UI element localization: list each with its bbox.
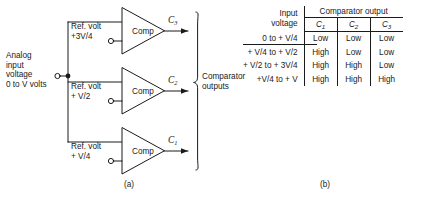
comparator-3-ref-line-2: +3V/4 (71, 32, 101, 42)
table-header-c1: C1 (304, 18, 337, 32)
analog-input-terminal-icon (55, 73, 60, 78)
table-header-c3-letter: C (382, 20, 388, 29)
table-row-3-c1: High (304, 73, 337, 87)
table-header-input-voltage: Input voltage (243, 6, 304, 32)
table-header-input-line-1: Input (243, 9, 298, 19)
comparator-1-ref-line-1: Ref. volt (71, 142, 101, 152)
comparator-1-body-label: Comp (132, 147, 154, 156)
caption-b: (b) (320, 180, 330, 189)
table-row-3-c2: High (337, 73, 370, 87)
table-row-2-c3: Low (370, 59, 403, 73)
table-row-3-c3: High (370, 73, 403, 87)
figure-root: Comp Comp Comp C3 C2 C1 Analog input vol… (0, 0, 439, 201)
comparator-3-body-label: Comp (132, 27, 154, 36)
analog-input-label-line-1: Analog (6, 51, 47, 61)
comparator-1-ref-line-2: + V/4 (71, 152, 101, 162)
table-row: + V/4 to + V/2 High Low Low (243, 46, 403, 60)
comparator-1-ref-terminal-icon (108, 158, 113, 163)
comparator-3-ref-label: Ref. volt +3V/4 (71, 22, 101, 41)
table-row-2-c2: High (337, 59, 370, 73)
table-row-0-c2: Low (337, 32, 370, 46)
comparator-2-ref-line-1: Ref. volt (71, 82, 101, 92)
table-header-c1-sub: 1 (322, 23, 325, 30)
table-row-1-c2: Low (337, 46, 370, 60)
comparator-1-output-label: C1 (168, 135, 177, 146)
table-row-2-c1: High (304, 59, 337, 73)
table-row-0-c3: Low (370, 32, 403, 46)
analog-input-label-line-3: voltage (6, 70, 47, 80)
comparator-3-output-label: C3 (168, 15, 177, 26)
table-row-1-c1: High (304, 46, 337, 60)
comparator-1-output-arrow-icon (181, 148, 188, 154)
comparator-2-body-label: Comp (132, 87, 154, 96)
table-header-c3-sub: 3 (388, 23, 391, 30)
comparator-3-ref-terminal-icon (108, 38, 113, 43)
table-header-c3: C3 (370, 18, 403, 32)
comparator-truth-table: Input voltage Comparator output C1 C2 C3… (243, 6, 403, 86)
comparator-3-output-arrow-icon (181, 28, 188, 34)
table-row-1-c3: Low (370, 46, 403, 60)
analog-input-label-line-2: input (6, 61, 47, 71)
table-row: +V/4 to + V High High High (243, 73, 403, 87)
comparator-outputs-label-line-2: outputs (202, 82, 245, 92)
table-row-1-input: + V/4 to + V/2 (243, 46, 304, 60)
comparator-1-ref-label: Ref. volt + V/4 (71, 142, 101, 161)
comparator-2-ref-line-2: + V/2 (71, 92, 101, 102)
table-header-input-line-2: voltage (243, 19, 298, 29)
comparator-outputs-label: Comparator outputs (202, 72, 245, 91)
table-row-3-input: +V/4 to + V (243, 73, 304, 87)
table-row-2-input: + V/2 to + 3V/4 (243, 59, 304, 73)
table-header-comparator-output: Comparator output (304, 6, 403, 18)
caption-a: (a) (124, 180, 134, 189)
table-header-c2: C2 (337, 18, 370, 32)
table-header-c1-letter: C (316, 20, 322, 29)
comparator-circuit-diagram: Comp Comp Comp C3 C2 C1 (0, 0, 240, 201)
table-header-c2-sub: 2 (355, 23, 358, 30)
comparator-3-ref-line-1: Ref. volt (71, 22, 101, 32)
comparator-outputs-label-line-1: Comparator (202, 72, 245, 82)
table-header-c2-letter: C (349, 20, 355, 29)
bus-junction-dot-icon (66, 74, 71, 79)
comparator-2-ref-label: Ref. volt + V/2 (71, 82, 101, 101)
comparator-2-output-arrow-icon (181, 88, 188, 94)
comparator-2-output-label: C2 (168, 75, 178, 86)
table-header-row-top: Input voltage Comparator output (243, 6, 403, 18)
table-row: + V/2 to + 3V/4 High High Low (243, 59, 403, 73)
table-header-rule (243, 44, 317, 45)
analog-input-label: Analog input voltage 0 to V volts (6, 51, 47, 89)
comparator-2-ref-terminal-icon (108, 98, 113, 103)
comparator-outputs-brace-icon (194, 12, 199, 170)
analog-input-label-line-4: 0 to V volts (6, 80, 47, 90)
